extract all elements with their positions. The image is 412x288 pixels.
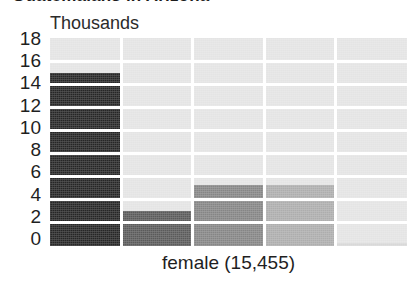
- gridline: [50, 221, 407, 224]
- y-axis-tick-8: 8: [30, 140, 41, 159]
- y-axis-tick-16: 16: [20, 51, 41, 70]
- bar-column: [336, 38, 407, 246]
- column-separator: [334, 38, 337, 246]
- bar-column: [50, 38, 121, 246]
- y-axis-tick-18: 18: [20, 29, 41, 48]
- y-axis-tick-0: 0: [30, 229, 41, 248]
- gridline: [50, 175, 407, 178]
- chart-title: Guatemalans in Arizona: [12, 0, 209, 6]
- bar-chart: Guatemalans in Arizona Thousands 1816141…: [0, 0, 412, 288]
- plot-area: [50, 38, 407, 246]
- bar: [264, 185, 335, 246]
- gridline: [50, 60, 407, 63]
- y-axis-tick-2: 2: [30, 207, 41, 226]
- y-axis-unit-label: Thousands: [50, 12, 139, 34]
- y-axis-tick-4: 4: [30, 185, 41, 204]
- gridline: [50, 83, 407, 86]
- gridline: [50, 106, 407, 109]
- bar: [193, 185, 264, 246]
- chart-title-clip: Guatemalans in Arizona: [0, 0, 412, 7]
- column-separator: [191, 38, 194, 246]
- y-axis-tick-labels: 181614121086420: [0, 29, 44, 248]
- y-axis-tick-14: 14: [20, 73, 41, 92]
- bar-column: [264, 38, 335, 246]
- gridline: [50, 129, 407, 132]
- bar: [121, 211, 192, 246]
- column-separator: [120, 38, 123, 246]
- bar: [50, 73, 121, 246]
- y-axis-tick-12: 12: [20, 96, 41, 115]
- bar-column: [121, 38, 192, 246]
- gridline: [50, 198, 407, 201]
- gridline: [50, 152, 407, 155]
- bar: [336, 243, 407, 246]
- x-axis-label: female (15,455): [50, 252, 407, 274]
- bar-column: [193, 38, 264, 246]
- y-axis-tick-6: 6: [30, 162, 41, 181]
- y-axis-tick-10: 10: [20, 118, 41, 137]
- column-separator: [263, 38, 266, 246]
